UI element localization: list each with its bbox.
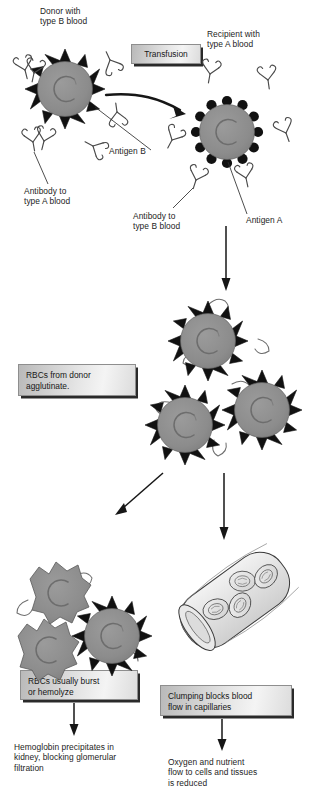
hemolysis-cluster bbox=[17, 562, 152, 681]
antibody-group-recipient bbox=[160, 58, 298, 191]
recipient-cell-icon bbox=[191, 96, 263, 168]
antibody-bridges-hemolysis bbox=[17, 573, 138, 661]
arrow-to-kidney-icon bbox=[70, 703, 79, 736]
label-antibody-to-a: Antibody to type A blood bbox=[24, 186, 70, 207]
donor-cell-icon bbox=[25, 49, 105, 129]
agglutination-cluster bbox=[145, 299, 302, 465]
leader-antibody-b bbox=[173, 188, 193, 208]
callout-clumping: Clumping blocks blood flow in capillarie… bbox=[160, 685, 292, 716]
label-recipient: Recipient with type A blood bbox=[207, 29, 260, 50]
callout-agglutinate: RBCs from donor agglutinate. bbox=[18, 364, 136, 396]
agglutinated-cell-3 bbox=[145, 385, 225, 465]
agglutinated-cell-1 bbox=[168, 301, 248, 381]
arrow-to-agglutination-icon bbox=[222, 226, 231, 291]
callout-hemolyze: RBCs usually burst or hemolyze bbox=[20, 670, 138, 700]
hemolyzed-cell-1 bbox=[30, 562, 91, 624]
label-antigen-a: Antigen A bbox=[246, 215, 282, 225]
leader-antigen-a bbox=[228, 162, 247, 214]
leader-antibody-a bbox=[34, 152, 48, 184]
leader-antigen-b bbox=[95, 107, 151, 150]
transfusion-arrow-icon bbox=[106, 94, 186, 119]
antibody-group-donor bbox=[12, 48, 128, 161]
arrow-to-capillary-icon bbox=[220, 473, 229, 540]
arrow-to-hemolysis-icon bbox=[115, 473, 163, 515]
capillary-icon bbox=[169, 540, 302, 660]
intact-cell-hemolysis bbox=[72, 596, 152, 676]
outcome-kidney: Hemoglobin precipitates in kidney, block… bbox=[14, 742, 116, 773]
antibody-bridges bbox=[155, 299, 285, 456]
arrow-to-oxygen-icon bbox=[218, 719, 227, 751]
transfusion-reaction-diagram: Donor with type B blood Recipient with t… bbox=[0, 0, 310, 803]
outcome-oxygen: Oxygen and nutrient flow to cells and ti… bbox=[168, 757, 257, 788]
label-antigen-b: Antigen B bbox=[109, 146, 146, 156]
agglutinated-cell-2 bbox=[222, 370, 302, 450]
label-antibody-to-b: Antibody to type B blood bbox=[133, 211, 180, 232]
label-donor: Donor with type B blood bbox=[40, 6, 87, 27]
callout-transfusion: Transfusion bbox=[131, 44, 201, 64]
